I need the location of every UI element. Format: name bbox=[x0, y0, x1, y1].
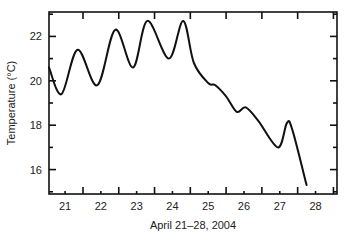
x-axis-ticks: 2122232425262728 bbox=[59, 12, 333, 212]
x-tick-label: 22 bbox=[95, 200, 107, 212]
y-axis-label: Temperature (°C) bbox=[5, 61, 17, 145]
temperature-series-line bbox=[49, 21, 307, 185]
temperature-line-chart: 2122232425262728 16182022 April 21–28, 2… bbox=[0, 0, 349, 241]
x-tick-label: 23 bbox=[131, 200, 143, 212]
x-tick-label: 21 bbox=[59, 200, 71, 212]
plot-frame bbox=[49, 12, 337, 194]
y-tick-label: 20 bbox=[30, 75, 42, 87]
x-tick-label: 24 bbox=[166, 200, 178, 212]
x-tick-label: 27 bbox=[274, 200, 286, 212]
y-tick-label: 18 bbox=[30, 119, 42, 131]
x-tick-label: 26 bbox=[238, 200, 250, 212]
x-tick-label: 25 bbox=[202, 200, 214, 212]
y-tick-label: 22 bbox=[30, 30, 42, 42]
y-tick-label: 16 bbox=[30, 164, 42, 176]
x-axis-label: April 21–28, 2004 bbox=[150, 219, 236, 231]
y-axis-ticks: 16182022 bbox=[30, 14, 337, 192]
x-tick-label: 28 bbox=[309, 200, 321, 212]
